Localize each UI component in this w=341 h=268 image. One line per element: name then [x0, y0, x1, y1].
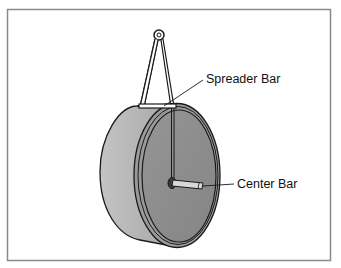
drum — [100, 104, 220, 248]
spreader-bar — [139, 104, 176, 108]
spreader-bar-label: Spreader Bar — [206, 72, 280, 86]
drum-face — [142, 110, 216, 242]
drum-lifting-diagram: Spreader Bar Center Bar — [0, 0, 341, 268]
center-bar-label: Center Bar — [237, 177, 297, 191]
